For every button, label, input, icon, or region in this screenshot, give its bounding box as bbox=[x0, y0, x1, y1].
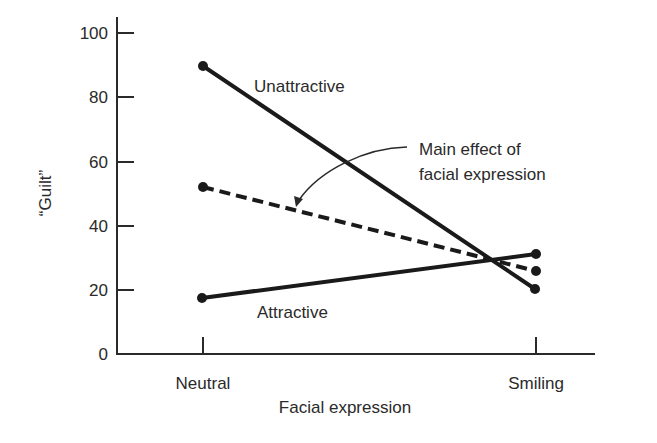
label-main-effect-line1: Main effect of bbox=[419, 140, 521, 159]
x-axis bbox=[116, 337, 595, 354]
x-category-neutral: Neutral bbox=[176, 374, 231, 393]
point-attractive-neutral bbox=[197, 293, 207, 303]
y-tick-0: 0 bbox=[99, 345, 108, 364]
point-main-effect-smiling bbox=[531, 266, 541, 276]
point-main-effect-neutral bbox=[198, 182, 208, 192]
y-axis bbox=[117, 17, 134, 355]
y-tick-60: 60 bbox=[89, 153, 108, 172]
point-unattractive-smiling bbox=[530, 284, 540, 294]
interaction-line-chart: 100 80 60 40 20 0 Neutral Smiling Facial… bbox=[0, 0, 657, 443]
label-main-effect-line2: facial expression bbox=[419, 165, 546, 184]
y-tick-20: 20 bbox=[89, 281, 108, 300]
point-attractive-smiling bbox=[531, 249, 541, 259]
x-category-smiling: Smiling bbox=[508, 374, 564, 393]
y-tick-40: 40 bbox=[89, 217, 108, 236]
y-tick-100: 100 bbox=[80, 24, 108, 43]
label-unattractive: Unattractive bbox=[254, 77, 345, 96]
y-axis-title: “Guilt” bbox=[36, 170, 55, 217]
y-tick-80: 80 bbox=[89, 88, 108, 107]
point-unattractive-neutral bbox=[198, 61, 208, 71]
x-axis-title: Facial expression bbox=[279, 398, 411, 417]
main-effect-arrow-icon bbox=[294, 147, 407, 207]
label-attractive: Attractive bbox=[257, 303, 328, 322]
y-tick-labels: 100 80 60 40 20 0 bbox=[80, 24, 108, 364]
